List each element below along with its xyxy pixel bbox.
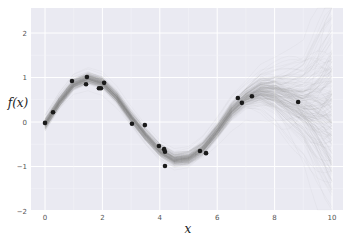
observation-point	[250, 94, 255, 99]
x-tick-label: 6	[215, 214, 220, 222]
y-axis-ticks: −2−1012	[17, 30, 27, 216]
observation-point	[99, 86, 104, 91]
observation-point	[102, 81, 107, 86]
x-tick-label: 2	[100, 214, 104, 222]
gp-posterior-chart: 0246810 −2−1012 x f(x)	[0, 0, 353, 243]
observation-point	[163, 150, 168, 155]
y-tick-label: −1	[17, 163, 27, 171]
observation-point	[163, 164, 168, 169]
observation-point	[143, 123, 148, 128]
y-tick-label: 1	[23, 74, 27, 82]
x-tick-label: 8	[272, 214, 276, 222]
x-axis-label: x	[185, 222, 192, 236]
observation-point	[84, 82, 89, 87]
observation-point	[43, 121, 48, 126]
x-tick-label: 4	[158, 214, 163, 222]
y-axis-label: f(x)	[7, 96, 29, 110]
observation-point	[198, 149, 203, 154]
x-tick-label: 0	[43, 214, 47, 222]
observation-point	[70, 79, 75, 84]
observation-point	[51, 110, 56, 115]
x-axis-ticks: 0246810	[43, 214, 337, 222]
observation-point	[157, 144, 162, 149]
y-tick-label: 0	[23, 119, 27, 127]
y-tick-label: 2	[23, 30, 27, 38]
observation-point	[204, 151, 209, 156]
observation-point	[130, 121, 135, 126]
observation-point	[240, 101, 245, 106]
observation-point	[85, 75, 90, 80]
observation-point	[296, 100, 301, 105]
y-tick-label: −2	[17, 208, 27, 216]
observation-point	[236, 96, 241, 101]
x-tick-label: 10	[328, 214, 337, 222]
